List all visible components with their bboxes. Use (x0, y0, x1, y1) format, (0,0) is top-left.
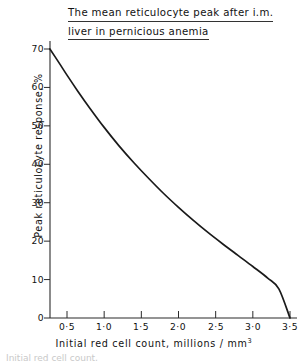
y-axis-ticks (44, 49, 50, 318)
x-axis-ticks (67, 311, 290, 318)
plot-area (0, 0, 308, 362)
figure-container: The mean reticulocyte peak after i.m. li… (0, 0, 308, 362)
cut-off-caption: Initial red cell count, (6, 353, 306, 361)
data-curve (50, 49, 290, 318)
